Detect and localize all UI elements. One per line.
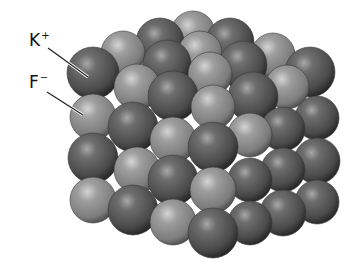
potassium-ion-sphere (67, 47, 119, 99)
potassium-ion-sphere (68, 133, 118, 183)
label-potassium-charge: + (41, 30, 49, 41)
potassium-ion-sphere (188, 208, 238, 258)
label-potassium-symbol: K (29, 30, 40, 50)
label-potassium-ion: K+ (29, 31, 50, 49)
potassium-ion-sphere (148, 155, 198, 205)
label-fluoride-charge: − (40, 72, 48, 83)
lattice-spheres (0, 0, 353, 268)
fluoride-ion-sphere (190, 167, 236, 213)
label-fluoride-ion: F− (29, 73, 48, 91)
label-fluoride-symbol: F (29, 72, 39, 92)
kf-crystal-lattice-diagram: K+ F− (0, 0, 353, 268)
ion-spheres-group (67, 11, 340, 258)
potassium-ion-sphere (148, 71, 198, 121)
potassium-ion-sphere (188, 122, 238, 172)
